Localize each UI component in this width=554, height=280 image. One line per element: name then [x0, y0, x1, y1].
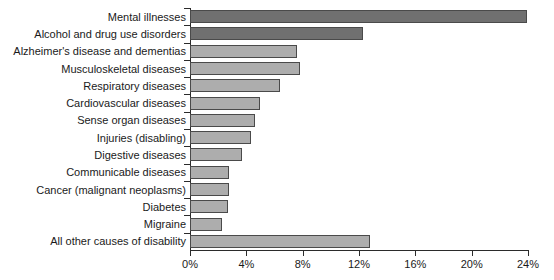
x-axis-tick: [415, 251, 416, 256]
bar-row: [190, 27, 528, 40]
bar: [190, 235, 370, 248]
category-label: Respiratory diseases: [0, 80, 186, 92]
category-label: Diabetes: [0, 201, 186, 213]
x-axis-tick: [246, 251, 247, 256]
x-axis-tick-label: 8%: [283, 258, 323, 271]
category-axis-labels: Mental illnessesAlcohol and drug use dis…: [0, 8, 186, 250]
category-label: Alcohol and drug use disorders: [0, 28, 186, 40]
y-axis-tick: [184, 112, 190, 113]
category-label: All other causes of disability: [0, 235, 186, 247]
y-axis-tick: [184, 233, 190, 234]
bar-row: [190, 45, 528, 58]
x-axis-tick-label: 24%: [508, 258, 548, 271]
bar: [190, 62, 300, 75]
y-axis-tick: [184, 8, 190, 9]
y-axis-tick: [184, 164, 190, 165]
x-axis-tick: [472, 251, 473, 256]
bar-row: [190, 79, 528, 92]
bar-row: [190, 10, 528, 23]
bar-row: [190, 131, 528, 144]
category-label: Cardiovascular diseases: [0, 97, 186, 109]
y-axis-tick: [184, 25, 190, 26]
x-axis-tick: [190, 251, 191, 256]
bar-row: [190, 200, 528, 213]
category-label: Mental illnesses: [0, 11, 186, 23]
bar: [190, 114, 255, 127]
category-label: Alzheimer's disease and dementias: [0, 45, 186, 57]
y-axis-tick: [184, 94, 190, 95]
bar-row: [190, 148, 528, 161]
plot-area: [190, 8, 528, 250]
category-label: Cancer (malignant neoplasms): [0, 184, 186, 196]
category-label: Injuries (disabling): [0, 132, 186, 144]
category-label: Communicable diseases: [0, 166, 186, 178]
bar: [190, 10, 527, 23]
bar: [190, 166, 229, 179]
bar-row: [190, 183, 528, 196]
bar: [190, 27, 363, 40]
bar: [190, 131, 251, 144]
bar-series: [190, 8, 528, 250]
bar-row: [190, 166, 528, 179]
x-axis-tick: [528, 251, 529, 256]
category-label: Sense organ diseases: [0, 114, 186, 126]
y-axis-tick: [184, 146, 190, 147]
x-axis-tick: [303, 251, 304, 256]
x-axis-tick: [359, 251, 360, 256]
x-axis-tick-label: 12%: [339, 258, 379, 271]
bar: [190, 97, 260, 110]
bar-chart: Mental illnessesAlcohol and drug use dis…: [0, 0, 554, 280]
y-axis-tick: [184, 215, 190, 216]
bar: [190, 183, 229, 196]
y-axis-tick: [184, 129, 190, 130]
x-axis-tick-label: 20%: [452, 258, 492, 271]
x-axis-tick-label: 4%: [226, 258, 266, 271]
category-label: Musculoskeletal diseases: [0, 63, 186, 75]
bar: [190, 45, 297, 58]
bar: [190, 218, 222, 231]
bar: [190, 200, 228, 213]
y-axis-tick: [184, 60, 190, 61]
bar-row: [190, 218, 528, 231]
bar: [190, 79, 280, 92]
bar: [190, 148, 242, 161]
bar-row: [190, 114, 528, 127]
bar-row: [190, 62, 528, 75]
y-axis-tick: [184, 43, 190, 44]
category-label: Migraine: [0, 218, 186, 230]
bar-row: [190, 97, 528, 110]
y-axis-tick: [184, 181, 190, 182]
y-axis-tick: [184, 198, 190, 199]
y-axis-tick: [184, 77, 190, 78]
bar-row: [190, 235, 528, 248]
category-label: Digestive diseases: [0, 149, 186, 161]
x-axis-tick-label: 16%: [395, 258, 435, 271]
x-axis-tick-label: 0%: [170, 258, 210, 271]
